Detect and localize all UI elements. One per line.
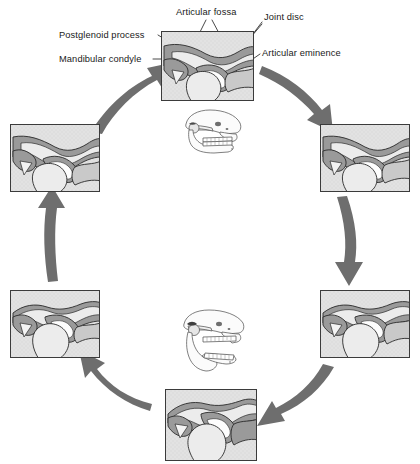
label-mandibular-condyle: Mandibular condyle <box>59 55 141 64</box>
tmj-section-left-upper <box>11 125 100 192</box>
label-articular-fossa: Articular fossa <box>176 8 236 17</box>
figure-canvas: Articular fossa Joint disc Postglenoid p… <box>0 0 420 464</box>
skull-mouth-closed <box>172 108 244 156</box>
tmj-section-top <box>162 32 254 101</box>
arrow-right-upper-to-lower <box>335 196 363 286</box>
panel-left-lower[interactable] <box>10 290 100 358</box>
label-articular-eminence: Articular eminence <box>262 49 341 58</box>
arrow-bottom-to-left-lower <box>79 350 152 411</box>
tmj-section-bottom <box>166 390 257 461</box>
arrow-left-lower-to-upper <box>38 186 65 282</box>
tmj-section-right-upper <box>321 125 410 192</box>
panel-bottom[interactable] <box>165 389 257 461</box>
skull-lateral-closed <box>172 108 244 156</box>
panel-left-upper[interactable] <box>10 124 100 192</box>
skull-lateral-open <box>172 308 252 374</box>
label-postglenoid-process: Postglenoid process <box>59 31 145 40</box>
panel-top[interactable] <box>161 31 254 101</box>
panel-right-lower[interactable] <box>320 290 410 358</box>
label-joint-disc: Joint disc <box>264 13 304 22</box>
skull-mouth-open <box>172 308 252 374</box>
tmj-section-right-lower <box>321 291 410 358</box>
arrow-top-to-right <box>259 66 333 132</box>
arrow-right-lower-to-bottom <box>257 364 334 426</box>
panel-right-upper[interactable] <box>320 124 410 192</box>
tmj-section-left-lower <box>11 291 100 358</box>
